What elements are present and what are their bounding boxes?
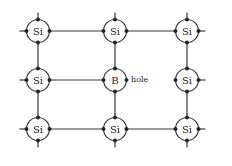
silicon-atom: Si xyxy=(25,67,52,94)
atom-label: Si xyxy=(110,124,120,135)
electron-dot xyxy=(185,116,189,120)
atom-label: Si xyxy=(110,26,120,37)
electron-dot xyxy=(125,29,129,33)
silicon-atom: Si xyxy=(174,116,201,143)
atom-label: Si xyxy=(33,124,43,135)
electron-dot xyxy=(113,41,117,45)
electron-dot xyxy=(174,78,178,82)
electron-dot xyxy=(102,78,106,82)
hole-label: hole xyxy=(131,75,149,84)
electron-dot xyxy=(36,18,40,22)
silicon-atom: Si xyxy=(25,116,52,143)
electron-dot xyxy=(185,18,189,22)
silicon-atom: Si xyxy=(174,18,201,45)
electron-dot xyxy=(197,78,201,82)
electron-dot xyxy=(25,78,29,82)
boron-atom: B xyxy=(102,67,129,94)
electron-dot xyxy=(125,127,129,131)
electron-dot xyxy=(174,127,178,131)
silicon-atom: Si xyxy=(102,116,129,143)
electron-dot xyxy=(185,41,189,45)
electron-dot xyxy=(36,67,40,71)
electron-dot xyxy=(25,29,29,33)
silicon-atom: Si xyxy=(102,18,129,45)
electron-dot xyxy=(185,90,189,94)
electron-dot xyxy=(36,116,40,120)
electron-dot xyxy=(113,90,117,94)
atom-label: Si xyxy=(33,75,43,86)
atom-label: Si xyxy=(33,26,43,37)
electron-dot xyxy=(113,18,117,22)
atoms: SiSiSiSiBSiSiSiSi xyxy=(25,18,201,143)
electron-dot xyxy=(48,29,52,33)
electron-dot xyxy=(48,127,52,131)
electron-dot xyxy=(25,127,29,131)
electron-dot xyxy=(185,67,189,71)
electron-dot xyxy=(113,67,117,71)
atom-label: B xyxy=(111,75,118,86)
boron-doped-silicon-lattice: SiSiSiSiBSiSiSiSi hole xyxy=(0,0,232,166)
electron-dot xyxy=(197,127,201,131)
electron-dot xyxy=(102,29,106,33)
silicon-atom: Si xyxy=(174,67,201,94)
electron-dot xyxy=(185,139,189,143)
electron-dot xyxy=(48,78,52,82)
atom-label: Si xyxy=(182,124,192,135)
electron-dot xyxy=(197,29,201,33)
atom-label: Si xyxy=(182,26,192,37)
electron-dot xyxy=(36,41,40,45)
atom-label: Si xyxy=(182,75,192,86)
electron-dot xyxy=(102,127,106,131)
electron-dot xyxy=(125,78,129,82)
electron-dot xyxy=(36,139,40,143)
electron-dot xyxy=(36,90,40,94)
electron-dot xyxy=(113,116,117,120)
electron-dot xyxy=(113,139,117,143)
silicon-atom: Si xyxy=(25,18,52,45)
electron-dot xyxy=(174,29,178,33)
